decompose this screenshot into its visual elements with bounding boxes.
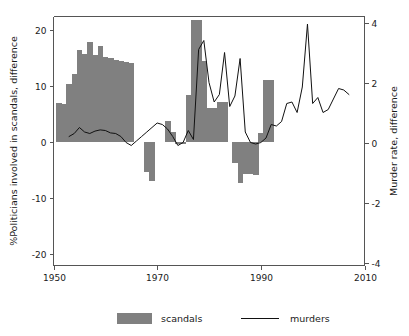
bar [103,57,109,142]
chart-figure: 1950197019902010 -20-1001020 -4-2024 %Po… [0,0,409,336]
bar [206,108,212,143]
bar [77,50,83,142]
y2-tick-label: 2 [372,79,378,89]
chart-legend: scandals murders [117,313,330,324]
y2-tick-label: -4 [372,259,381,269]
x-tick-label: 1950 [43,273,66,283]
bar [222,102,228,143]
y-axis-right: -4-2024 [365,19,381,269]
bar [113,60,119,143]
legend-label-murders: murders [290,313,330,324]
bar [92,55,98,142]
bar [248,142,254,174]
x-axis: 1950197019902010 [43,266,377,283]
y-axis-right-title: Murder rate, difference [388,86,399,196]
bar [238,142,244,182]
bar [118,61,124,142]
bar [149,142,155,181]
legend-label-scandals: scandals [161,313,203,324]
bar [82,54,88,142]
bar [269,80,275,143]
bar [144,142,150,171]
bar [212,108,218,143]
y-axis-left-title: %Politicians involved in scandals, diffe… [8,36,19,246]
y-tick-label: -20 [32,250,47,260]
bar [98,46,104,142]
x-tick-label: 1970 [146,273,169,283]
bar-series-scandals [56,20,274,182]
y-tick-label: 20 [35,26,47,36]
y-axis-left: -20-1001020 [32,26,54,260]
x-tick-label: 2010 [354,273,377,283]
bar [72,74,78,142]
bar [191,20,197,142]
bar [232,142,238,163]
bar [129,63,135,142]
bar [66,84,72,143]
bar [108,58,114,142]
legend-swatch-scandals [117,313,152,324]
y2-tick-label: -2 [372,199,381,209]
y-tick-label: 0 [41,138,47,148]
bar [56,103,62,142]
bar [123,62,129,142]
y-tick-label: -10 [32,194,47,204]
y2-tick-label: 0 [372,139,378,149]
bar [253,142,259,174]
y2-tick-label: 4 [372,19,378,29]
bar [61,104,67,142]
bar [217,102,223,143]
chart-canvas: 1950197019902010 -20-1001020 -4-2024 %Po… [0,0,409,336]
bar [243,142,249,173]
bar [201,61,207,143]
x-tick-label: 1990 [250,273,273,283]
bar [87,42,93,143]
y-tick-label: 10 [35,82,47,92]
